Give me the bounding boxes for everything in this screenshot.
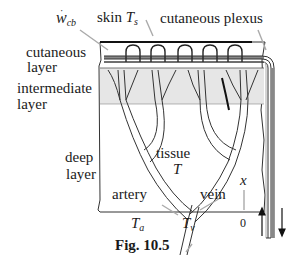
plexus-vertical-bar [271,68,274,238]
tissue-label: tissue [156,146,190,161]
zero-label: 0 [240,216,246,231]
deep-label: deep [65,150,93,165]
vein-label: vein [200,187,226,202]
deep-layer-label: layer [66,167,96,182]
x-axis-label: x [240,173,247,188]
intermediate-layer-label: layer [17,97,47,112]
cutaneous-label: cutaneous [26,45,86,60]
tissue-T-label: T [173,162,181,177]
T-a-label: Ta [131,216,144,235]
cutaneous-layer-label: layer [27,60,57,75]
intermediate-label: intermediate [17,81,92,96]
figure-caption: Fig. 10.5 [115,237,170,254]
T-v-label: Tv [182,216,195,235]
w-cb-label: wcb· [56,10,76,30]
cutaneous-plexus-label: cutaneous plexus [160,11,263,26]
skin-label: skin Ts [97,10,138,29]
figure-10-5: wcb· skin Ts cutaneous plexus cutaneous … [0,0,299,259]
skin-layers-diagram [0,0,299,259]
artery-label: artery [112,187,147,202]
